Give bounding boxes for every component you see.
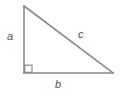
hypotenuse-label: c bbox=[78, 29, 84, 40]
hypotenuse-line bbox=[24, 6, 113, 73]
vertical-leg-label: a bbox=[7, 31, 13, 42]
right-angle-marker-icon bbox=[25, 65, 32, 72]
horizontal-leg-label: b bbox=[55, 79, 61, 90]
right-triangle-figure: a c b bbox=[0, 0, 122, 96]
